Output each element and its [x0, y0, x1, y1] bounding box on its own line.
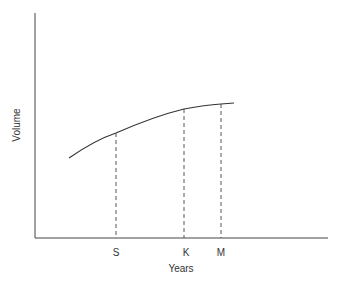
tick-label-s: S: [113, 247, 120, 258]
tick-label-k: K: [183, 247, 190, 258]
y-axis-label: Volume: [11, 108, 22, 142]
volume-curve: [69, 103, 234, 158]
chart: S K M Years Volume: [0, 0, 341, 286]
x-axis-label: Years: [168, 263, 193, 274]
tick-label-m: M: [217, 247, 225, 258]
